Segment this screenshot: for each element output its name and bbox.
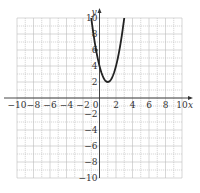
x-tick-label: 10	[176, 100, 188, 110]
y-tick-label: −10	[79, 173, 98, 183]
x-tick-label: −10	[8, 100, 27, 110]
y-axis-arrow	[98, 8, 102, 13]
x-tick-label: 8	[163, 100, 169, 110]
y-axis-label: y	[91, 7, 98, 17]
y-tick-label: −2	[84, 109, 97, 119]
y-tick-label: −8	[84, 157, 98, 167]
x-tick-label: −6	[43, 100, 57, 110]
data-point	[95, 48, 98, 51]
x-tick-label: −4	[60, 100, 74, 110]
x-tick-label: −8	[27, 100, 41, 110]
x-axis-label: x	[188, 100, 193, 110]
x-tick-label: 4	[130, 100, 136, 110]
parabola-chart: −10−8−6−4−20246810108642−2−4−6−8−10 x y	[0, 0, 200, 193]
y-tick-label: 4	[92, 61, 98, 71]
y-tick-label: −6	[84, 141, 98, 151]
y-tick-label: −4	[84, 125, 98, 135]
axes	[4, 8, 193, 178]
x-tick-label: 6	[146, 100, 152, 110]
x-tick-label: 2	[113, 100, 119, 110]
y-tick-label: 2	[92, 77, 98, 87]
